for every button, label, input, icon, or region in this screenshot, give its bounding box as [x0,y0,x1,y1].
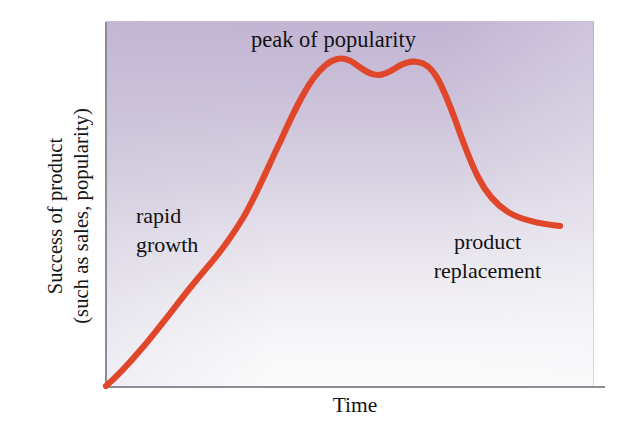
annotation-product-replacement-line2: replacement [405,256,570,285]
y-axis-line [105,22,107,388]
product-life-cycle-chart: Success of product (such as sales, popul… [0,0,621,426]
annotation-product-replacement-line1: product [405,227,570,256]
plot-right-edge [593,22,594,386]
annotation-rapid-growth: rapid growth [136,201,198,259]
annotation-peak-of-popularity: peak of popularity [251,26,416,53]
annotation-rapid-growth-line2: growth [136,230,198,259]
x-axis-line [105,386,605,388]
plot-top-edge [106,21,594,22]
y-axis-label: Success of product (such as sales, popul… [42,16,102,416]
annotation-product-replacement: product replacement [405,227,570,285]
annotation-rapid-growth-line1: rapid [136,201,198,230]
y-axis-label-line2: (such as sales, popularity) [68,16,94,416]
y-axis-label-line1: Success of product [42,16,68,416]
x-axis-label: Time [106,393,604,418]
